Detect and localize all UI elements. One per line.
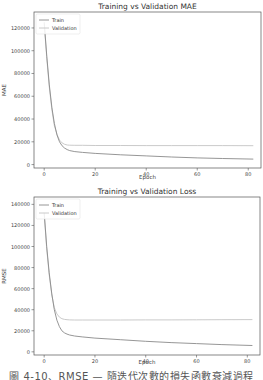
y-tick-label: 120000 <box>11 25 30 31</box>
y-tick-label: 20000 <box>14 328 30 334</box>
series-line-validation <box>44 214 252 320</box>
x-axis-label: Epoch <box>139 359 156 366</box>
chart-title: Training vs Validation Loss <box>97 187 197 196</box>
x-tick-label: 60 <box>194 171 200 177</box>
y-tick-label: 100000 <box>11 48 30 54</box>
y-tick-label: 80000 <box>14 265 30 271</box>
mae-chart: Training vs Validation MAE02000040000600… <box>0 0 263 186</box>
x-tick-label: 0 <box>43 171 46 177</box>
y-tick-label: 0 <box>27 349 30 355</box>
y-tick-label: 40000 <box>14 307 30 313</box>
mae-chart-svg: Training vs Validation MAE02000040000600… <box>0 0 263 186</box>
y-tick-label: 0 <box>27 162 30 168</box>
loss-chart: Training vs Validation Loss0200004000060… <box>0 186 263 370</box>
series-line-train <box>44 22 253 159</box>
legend-label-validation: Validation <box>52 25 77 31</box>
y-tick-label: 40000 <box>14 116 30 122</box>
y-tick-label: 140000 <box>11 201 30 207</box>
chart-title: Training vs Validation MAE <box>97 2 197 11</box>
x-axis-label: Epoch <box>139 174 156 181</box>
x-tick-label: 0 <box>43 358 46 364</box>
y-axis-label: MAE <box>1 83 7 96</box>
y-axis-label: RMSE <box>1 268 7 284</box>
x-tick-label: 20 <box>92 171 98 177</box>
y-tick-label: 100000 <box>11 244 30 250</box>
plot-frame <box>34 197 260 355</box>
loss-chart-svg: Training vs Validation Loss0200004000060… <box>0 186 263 370</box>
legend-label-train: Train <box>51 17 64 23</box>
figure-caption: 圖 4-10、RMSE — 隨迭代次數的損失函數衰減過程 <box>0 370 263 380</box>
plot-frame <box>34 12 261 168</box>
y-tick-label: 60000 <box>14 286 30 292</box>
y-tick-label: 80000 <box>14 70 30 76</box>
x-tick-label: 20 <box>92 358 98 364</box>
y-tick-label: 60000 <box>14 93 30 99</box>
y-tick-label: 120000 <box>11 222 30 228</box>
x-tick-label: 80 <box>244 358 250 364</box>
x-tick-label: 60 <box>193 358 199 364</box>
series-line-validation <box>44 23 253 145</box>
legend-label-train: Train <box>51 202 64 208</box>
legend: TrainValidation <box>36 14 80 34</box>
series-line-train <box>44 213 252 346</box>
y-tick-label: 20000 <box>14 139 30 145</box>
legend: TrainValidation <box>36 199 80 219</box>
x-tick-label: 80 <box>245 171 251 177</box>
legend-label-validation: Validation <box>52 210 77 216</box>
